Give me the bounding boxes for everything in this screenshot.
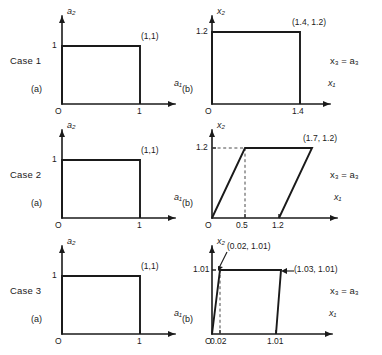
figure-root: Case 1 (a) a₁ a₂ O 1 1 (1,1) (b) xyxy=(0,0,382,355)
leader-line-left xyxy=(219,252,227,268)
x-tick-label-1: 1 xyxy=(137,336,142,346)
x-tick-label-05: 0.5 xyxy=(236,220,248,230)
y-axis-label-a2: a₂ xyxy=(67,236,75,246)
y-axis-arrow xyxy=(59,130,65,137)
x-axis-label-x1: x₁ xyxy=(334,192,341,202)
x-axis-label-a1: a₁ xyxy=(174,192,182,202)
x-axis-label-a1: a₁ xyxy=(174,78,182,88)
x-axis-arrow xyxy=(168,215,175,221)
origin-label: O xyxy=(55,336,62,346)
x-axis-arrow xyxy=(168,101,175,107)
y-axis-arrow xyxy=(209,130,215,137)
relation-label-2: x₃ = a₃ xyxy=(330,169,359,180)
vertex-label-0-02-1-01: (0.02, 1.01) xyxy=(227,241,270,251)
x-tick-label-1: 1 xyxy=(137,220,142,230)
y-axis-label-a2: a₂ xyxy=(67,6,75,16)
x-axis-label-x1: x₁ xyxy=(329,308,336,318)
panel-letter-3a: (a) xyxy=(31,314,42,324)
relation-label-3: x₃ = a₃ xyxy=(330,285,359,296)
panel-letter-2a: (a) xyxy=(31,198,42,208)
panel-letter-3b: (b) xyxy=(182,314,193,324)
y-tick-label-1: 1 xyxy=(52,270,57,280)
origin-label: O xyxy=(205,220,212,230)
region-transformed-near-square xyxy=(212,270,281,334)
x-tick-label-12: 1.2 xyxy=(272,220,284,230)
plot-case1-panel-a: a₁ a₂ O 1 1 (1,1) xyxy=(45,0,220,118)
y-tick-label-12: 1.2 xyxy=(196,142,208,152)
x-axis-arrow xyxy=(325,331,332,337)
x-axis-label-x1: x₁ xyxy=(328,78,335,88)
y-axis-label-a2: a₂ xyxy=(67,120,75,130)
case-label-1: Case 1 xyxy=(10,55,41,66)
panel-letter-1a: (a) xyxy=(31,84,42,94)
y-tick-label-101: 1.01 xyxy=(193,264,210,274)
plot-case3-panel-a: a₁ a₂ O 1 1 (1,1) xyxy=(45,230,220,348)
vertex-label-1-1: (1,1) xyxy=(141,261,158,271)
region-unit-square xyxy=(62,46,140,104)
vertex-label-1-1: (1,1) xyxy=(141,145,158,155)
vertex-label-1-1: (1,1) xyxy=(141,31,158,41)
case-label-2: Case 2 xyxy=(10,169,41,180)
y-axis-label-x2: x₂ xyxy=(217,6,225,16)
origin-label: O xyxy=(55,220,62,230)
x-axis-label-a1: a₁ xyxy=(174,308,182,318)
region-transformed-parallelogram xyxy=(212,148,312,218)
case-label-3: Case 3 xyxy=(10,285,41,296)
y-axis-arrow xyxy=(59,246,65,253)
region-unit-square xyxy=(62,276,140,334)
leader-arrow-right xyxy=(281,268,287,274)
vertex-label-1-03-1-01: (1.03, 1.01) xyxy=(294,264,337,274)
plot-case2-panel-a: a₁ a₂ O 1 1 (1,1) xyxy=(45,114,220,232)
y-axis-label-x2: x₂ xyxy=(217,236,225,246)
panel-letter-2b: (b) xyxy=(182,198,193,208)
y-tick-label-1: 1 xyxy=(52,154,57,164)
x-tick-label-002: 0.02 xyxy=(210,336,227,346)
x-axis-arrow xyxy=(323,101,330,107)
y-axis-label-x2: x₂ xyxy=(217,120,225,130)
x-axis-arrow xyxy=(168,331,175,337)
region-unit-square xyxy=(62,160,140,218)
case-row-2: Case 2 (a) a₁ a₂ O 1 1 (1,1) (b) xyxy=(0,114,382,232)
region-transformed-rectangle xyxy=(212,32,300,104)
case-row-1: Case 1 (a) a₁ a₂ O 1 1 (1,1) (b) xyxy=(0,0,382,118)
y-tick-label-1: 1.2 xyxy=(196,26,208,36)
y-tick-label-1: 1 xyxy=(52,40,57,50)
panel-letter-1b: (b) xyxy=(182,84,193,94)
y-axis-arrow xyxy=(209,16,215,23)
x-tick-label-101: 1.01 xyxy=(267,336,284,346)
relation-label-1: x₃ = a₃ xyxy=(330,55,359,66)
x-axis-arrow xyxy=(330,215,337,221)
y-axis-arrow xyxy=(209,246,215,253)
case-row-3: Case 3 (a) a₁ a₂ O 1 1 (1,1) (b) xyxy=(0,230,382,348)
y-axis-arrow xyxy=(59,16,65,23)
vertex-label-1-4-1-2: (1.4, 1.2) xyxy=(292,17,326,27)
vertex-label-1-7-1-2: (1.7, 1.2) xyxy=(303,133,337,143)
